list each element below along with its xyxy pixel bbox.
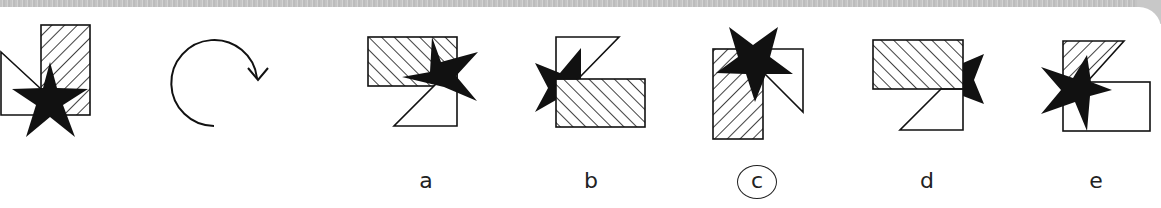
clockwise-rotation-arrow-icon [171, 40, 268, 126]
white-triangle [1, 52, 41, 115]
option-a-figure[interactable] [368, 37, 478, 126]
option-e-label[interactable]: e [1089, 168, 1103, 194]
option-e-figure[interactable] [1041, 41, 1150, 131]
option-c-figure[interactable] [713, 27, 803, 139]
question-figure [1, 25, 90, 137]
option-a-label[interactable]: a [419, 168, 432, 194]
option-d-figure[interactable] [873, 40, 984, 130]
puzzle-figures [0, 0, 1161, 208]
option-b-figure[interactable] [535, 37, 645, 127]
option-c-label[interactable]: c [751, 168, 763, 194]
option-d-label[interactable]: d [920, 168, 934, 194]
option-b-label[interactable]: b [584, 168, 598, 194]
